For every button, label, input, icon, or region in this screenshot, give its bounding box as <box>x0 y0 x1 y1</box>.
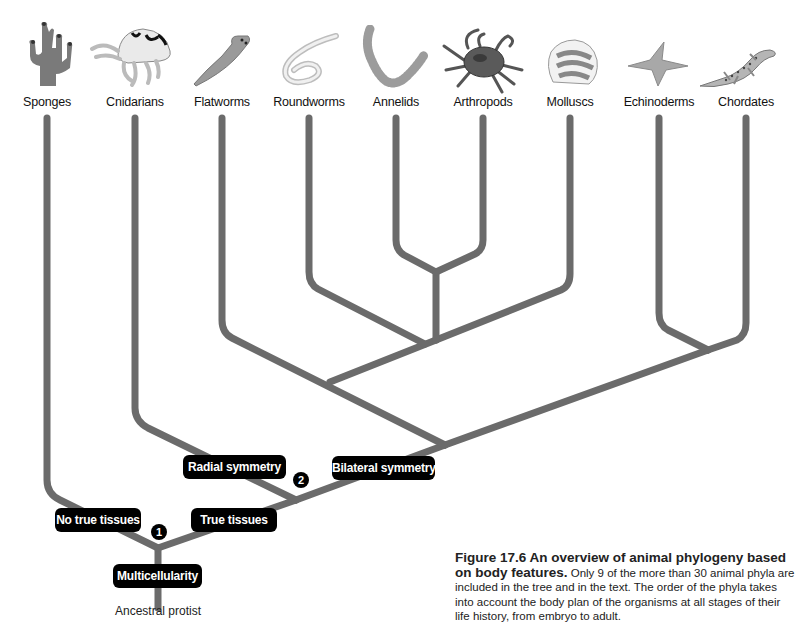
segmented-worm-icon <box>362 25 432 93</box>
crab-icon <box>436 26 528 96</box>
jellyfish-icon <box>88 25 178 87</box>
branch-deuterostomes <box>445 350 708 445</box>
branch-echinoderms <box>659 118 708 350</box>
branch-arthropods <box>436 118 483 272</box>
figure-number: Figure 17.6 <box>455 550 526 565</box>
branch-flatworms <box>222 118 445 445</box>
taxon-label-echinoderms: Echinoderms <box>624 95 695 109</box>
trait-radial-symmetry: Radial symmetry <box>183 455 286 479</box>
starfish-icon <box>626 40 690 92</box>
figure-caption: Figure 17.6 An overview of animal phylog… <box>455 551 795 624</box>
taxon-label-cnidarians: Cnidarians <box>106 95 164 109</box>
taxon-label-molluscs: Molluscs <box>546 95 593 109</box>
sponge-icon <box>22 18 74 88</box>
root-label: Ancestral protist <box>115 604 201 618</box>
trait-true-tissues: True tissues <box>191 508 277 532</box>
branch-roundworms <box>309 118 425 344</box>
roundworm-icon <box>278 32 340 88</box>
trait-bilateral-symmetry: Bilateral symmetry <box>332 456 435 480</box>
branch-chordates <box>708 118 746 350</box>
flatworm-icon <box>192 32 254 88</box>
trait-no-true-tissues: No true tissues <box>55 508 141 532</box>
branch-molluscs <box>436 118 570 340</box>
branch-cnidarians <box>135 118 296 500</box>
node-badge-1: 1 <box>151 524 167 540</box>
branch-protostomes <box>330 340 436 382</box>
trait-multicellularity: Multicellularity <box>113 564 202 588</box>
phylogeny-figure: Sponges Cnidarians Flatworms Roundworms … <box>0 0 805 640</box>
taxon-label-flatworms: Flatworms <box>194 95 250 109</box>
lizard-icon <box>698 42 780 90</box>
scallop-shell-icon <box>543 36 603 90</box>
branch-sponges <box>47 118 158 548</box>
taxon-label-arthropods: Arthropods <box>453 95 512 109</box>
node-badge-2: 2 <box>293 472 309 488</box>
taxon-label-sponges: Sponges <box>23 95 71 109</box>
branch-annelids <box>396 118 436 272</box>
taxon-label-annelids: Annelids <box>373 95 419 109</box>
taxon-label-roundworms: Roundworms <box>273 95 345 109</box>
taxon-label-chordates: Chordates <box>718 95 774 109</box>
